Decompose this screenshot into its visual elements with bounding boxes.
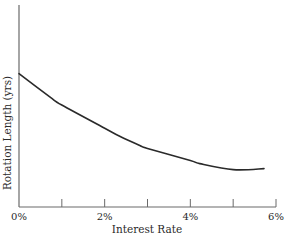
x-axis-tick-labels: 0%2%4%6% [11, 211, 284, 222]
x-tick-label: 4% [182, 211, 198, 222]
x-tick-label: 0% [11, 211, 27, 222]
chart-canvas: 0%2%4%6% Interest Rate Rotation Length (… [0, 0, 287, 237]
rotation-length-chart: 0%2%4%6% Interest Rate Rotation Length (… [0, 0, 287, 237]
axes [19, 5, 276, 207]
y-axis-label: Rotation Length (yrs) [1, 76, 13, 190]
x-axis-ticks [62, 199, 276, 207]
x-tick-label: 2% [97, 211, 113, 222]
x-tick-label: 6% [268, 211, 284, 222]
rotation-length-curve [19, 74, 264, 170]
x-axis-label: Interest Rate [112, 223, 182, 235]
